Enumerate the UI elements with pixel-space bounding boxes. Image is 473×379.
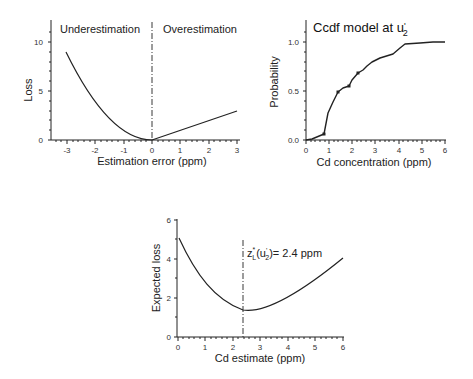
expected-x-label: Cd estimate (ppm) <box>215 352 305 364</box>
expected-ytick: 6 <box>167 216 172 225</box>
loss-linear-curve <box>152 111 237 140</box>
loss-quadratic-curve <box>66 52 152 140</box>
underestimation-label: Underestimation <box>60 23 140 35</box>
ccdf-xtick: 0 <box>304 146 309 155</box>
expected-ytick: 2 <box>167 294 172 303</box>
expected-y-label: Expected loss <box>150 243 162 312</box>
ccdf-xtick: 1 <box>327 146 332 155</box>
expected-xtick: 5 <box>313 343 318 352</box>
ccdf-curve <box>306 42 445 140</box>
expected-loss-chart: 0 2 4 6 0 1 2 3 4 5 6 z*L(u'2)= 2.4 ppm … <box>150 216 346 364</box>
expected-x-ticks <box>178 337 343 341</box>
ccdf-xtick: 5 <box>420 146 425 155</box>
expected-ytick: 4 <box>167 255 172 264</box>
expected-xtick: 2 <box>231 343 236 352</box>
expected-xtick: 6 <box>341 343 346 352</box>
loss-x-label: Estimation error (ppm) <box>97 155 206 167</box>
ccdf-y-label: Probability <box>268 56 280 108</box>
ccdf-x-label: Cd concentration (ppm) <box>317 156 432 168</box>
loss-xtick: 2 <box>207 146 212 155</box>
loss-xtick: -1 <box>120 146 128 155</box>
ccdf-x-ticks <box>306 140 445 144</box>
loss-xtick: -3 <box>63 146 71 155</box>
ccdf-ytick: 0.0 <box>288 136 300 145</box>
expected-xtick: 4 <box>286 343 291 352</box>
ccdf-markers <box>323 72 360 136</box>
expected-xtick: 1 <box>203 343 208 352</box>
figure: 0 5 10 -3 -2 -1 0 1 2 3 Underestimation … <box>0 0 473 379</box>
loss-xtick: 0 <box>150 146 155 155</box>
ccdf-xtick: 6 <box>443 146 448 155</box>
loss-x-ticks <box>56 140 237 144</box>
ccdf-xtick: 4 <box>397 146 402 155</box>
expected-xtick: 3 <box>258 343 263 352</box>
expected-xtick: 0 <box>176 343 181 352</box>
optimum-annotation: z*L(u'2)= 2.4 ppm <box>247 246 322 261</box>
loss-ytick-10: 10 <box>34 38 43 47</box>
loss-chart: 0 5 10 -3 -2 -1 0 1 2 3 Underestimation … <box>22 20 240 167</box>
ccdf-title: Ccdf model at u'2 <box>313 20 408 38</box>
loss-xtick: -2 <box>91 146 99 155</box>
ccdf-ytick: 0.5 <box>288 87 300 96</box>
ccdf-xtick: 2 <box>350 146 355 155</box>
overestimation-label: Overestimation <box>163 23 237 35</box>
loss-xtick: 1 <box>178 146 183 155</box>
loss-xtick: 3 <box>235 146 240 155</box>
ccdf-chart: 0.0 0.5 1.0 0 1 2 3 4 5 6 Ccdf model at … <box>268 20 448 168</box>
loss-ytick-5: 5 <box>39 87 44 96</box>
ccdf-xtick: 3 <box>373 146 378 155</box>
ccdf-ytick: 1.0 <box>288 38 300 47</box>
loss-ytick-0: 0 <box>39 136 44 145</box>
loss-y-label: Loss <box>22 78 34 102</box>
expected-ytick: 0 <box>167 333 172 342</box>
